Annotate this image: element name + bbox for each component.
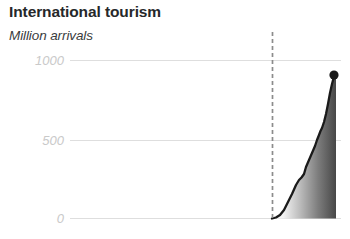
series-end-marker	[329, 70, 338, 79]
area-fill	[272, 77, 336, 219]
y-tick-label-500: 500	[42, 133, 64, 148]
chart-plot-area: 1000 500 0	[0, 0, 350, 239]
y-tick-label-1000: 1000	[35, 53, 65, 68]
chart-figure: International tourism Million arrivals 1…	[0, 0, 350, 239]
y-tick-label-0: 0	[57, 211, 65, 226]
